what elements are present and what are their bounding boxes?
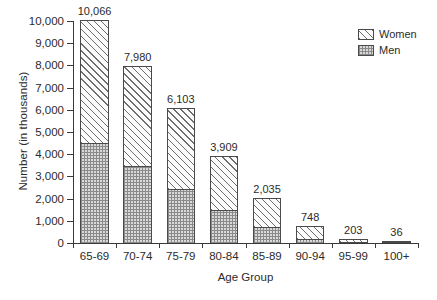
bar-segment-women [167, 108, 195, 190]
y-tick-label: 5,000 [35, 126, 64, 138]
bar-segment-men [253, 227, 281, 243]
x-tick-label: 95-99 [339, 250, 368, 262]
bar-segment-women [123, 66, 151, 166]
y-tick-mark [67, 176, 73, 177]
bar-segment-men [382, 242, 410, 243]
y-tick-label: 1,000 [35, 215, 64, 227]
bar-value-label: 36 [390, 226, 402, 238]
x-axis-title: Age Group [73, 271, 418, 283]
y-axis-title: Number (in thousands) [17, 46, 29, 216]
bar-column[interactable]: 6,103 [167, 108, 195, 243]
legend-item-women: Women [358, 28, 417, 40]
bar-value-label: 10,066 [78, 5, 112, 17]
bar-chart: Number (in thousands) 01,0002,0003,0004,… [0, 0, 437, 300]
bar-segment-men [296, 239, 324, 243]
bar-segment-men [123, 166, 151, 243]
y-tick-mark [67, 154, 73, 155]
x-tick-label: 70-74 [123, 250, 152, 262]
y-tick-label: 0 [58, 237, 64, 249]
x-tick-mark [375, 243, 376, 248]
bar-segment-women [80, 20, 108, 143]
x-tick-label: 90-94 [295, 250, 324, 262]
x-tick-mark [332, 243, 333, 248]
bar-segment-women [253, 198, 281, 227]
x-tick-mark [418, 243, 419, 248]
bar-column[interactable]: 3,909 [210, 156, 238, 243]
x-tick-mark [159, 243, 160, 248]
y-tick-label: 8,000 [35, 59, 64, 71]
legend-label-women: Women [379, 28, 417, 40]
x-tick-label: 80-84 [209, 250, 238, 262]
x-tick-mark [116, 243, 117, 248]
y-tick-mark [67, 43, 73, 44]
bar-value-label: 3,909 [210, 141, 238, 153]
bar-column[interactable]: 7,980 [123, 66, 151, 243]
x-tick-label: 85-89 [252, 250, 281, 262]
legend-item-men: Men [358, 44, 417, 56]
bar-value-label: 748 [301, 211, 319, 223]
bar-segment-men [339, 242, 367, 243]
bar-column[interactable]: 748 [296, 226, 324, 243]
bar-segment-men [80, 143, 108, 243]
x-tick-label: 75-79 [166, 250, 195, 262]
y-tick-mark [67, 199, 73, 200]
bar-column[interactable]: 203 [339, 239, 367, 244]
y-tick-mark [67, 65, 73, 66]
bar-value-label: 2,035 [253, 183, 281, 195]
y-tick-mark [67, 221, 73, 222]
legend-swatch-men-icon [358, 45, 374, 56]
bar-column[interactable]: 2,035 [253, 198, 281, 243]
y-tick-mark [67, 132, 73, 133]
y-tick-label: 9,000 [35, 37, 64, 49]
bar-column[interactable]: 10,066 [80, 20, 108, 243]
bar-segment-women [210, 156, 238, 210]
y-axis-line [73, 21, 74, 243]
x-tick-label: 100+ [383, 250, 409, 262]
y-tick-label: 3,000 [35, 170, 64, 182]
y-tick-label: 2,000 [35, 193, 64, 205]
x-tick-label: 65-69 [80, 250, 109, 262]
x-tick-mark [73, 243, 74, 248]
y-tick-mark [67, 110, 73, 111]
y-tick-label: 4,000 [35, 148, 64, 160]
x-tick-mark [202, 243, 203, 248]
legend-swatch-women-icon [358, 29, 374, 40]
bar-segment-women [296, 226, 324, 239]
bar-segment-men [167, 189, 195, 243]
y-tick-label: 10,000 [29, 15, 64, 27]
bar-segment-men [210, 210, 238, 243]
chart-legend: Women Men [358, 28, 417, 60]
y-tick-mark [67, 21, 73, 22]
bar-value-label: 6,103 [167, 93, 195, 105]
x-tick-mark [246, 243, 247, 248]
bar-value-label: 7,980 [124, 51, 152, 63]
bar-value-label: 203 [344, 224, 362, 236]
y-tick-label: 7,000 [35, 82, 64, 94]
legend-label-men: Men [379, 44, 400, 56]
x-tick-mark [289, 243, 290, 248]
bar-column[interactable]: 36 [382, 241, 410, 243]
y-tick-mark [67, 88, 73, 89]
y-tick-label: 6,000 [35, 104, 64, 116]
